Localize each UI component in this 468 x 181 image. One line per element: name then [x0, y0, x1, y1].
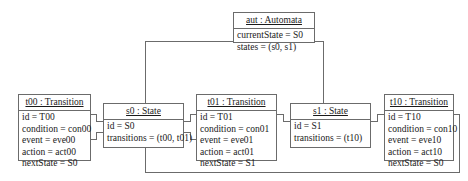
- object-title-t10: t10 : Transition: [390, 97, 448, 107]
- object-title-t00: t00 : Transition: [25, 97, 83, 107]
- object-header-t01: t01 : Transition: [197, 95, 276, 111]
- slot: condition = con10: [388, 124, 450, 136]
- object-title-t01: t01 : Transition: [207, 97, 265, 107]
- object-header-aut: aut : Automata: [234, 13, 314, 29]
- slot: nextState = S0: [22, 158, 87, 170]
- object-node-s1[interactable]: s1 : State id = S1 transitions = (t10): [290, 103, 371, 148]
- slot: id = S0: [107, 121, 180, 133]
- slot: event = eve00: [22, 135, 87, 147]
- object-node-aut[interactable]: aut : Automata currentState = S0 states …: [233, 12, 315, 43]
- slot: action = act10: [388, 147, 450, 159]
- slot: id = T01: [200, 112, 273, 124]
- object-slots-t01: id = T01 condition = con01 event = eve01…: [197, 111, 276, 172]
- link-s0-t01: [184, 115, 197, 122]
- slot: nextState = S0: [388, 158, 450, 170]
- slot: action = act00: [22, 147, 87, 159]
- link-t01-s1: [277, 115, 291, 122]
- slot: id = S1: [294, 121, 367, 133]
- slot: transitions = (t10): [294, 133, 367, 145]
- object-slots-t00: id = T00 condition = con00 event = eve00…: [19, 111, 90, 172]
- object-slots-aut: currentState = S0 states = (s0, s1): [234, 29, 314, 55]
- object-node-t10[interactable]: t10 : Transition id = T10 condition = co…: [384, 94, 454, 161]
- object-diagram-canvas: aut : Automata currentState = S0 states …: [0, 0, 468, 181]
- slot: states = (s0, s1): [237, 42, 311, 54]
- object-slots-t10: id = T10 condition = con10 event = eve10…: [385, 111, 453, 172]
- object-slots-s1: id = S1 transitions = (t10): [291, 120, 370, 146]
- object-node-t01[interactable]: t01 : Transition id = T01 condition = co…: [196, 94, 277, 161]
- object-node-t00[interactable]: t00 : Transition id = T00 condition = co…: [18, 94, 91, 161]
- link-s1-t10: [371, 115, 385, 122]
- link-t00-s0: [91, 115, 104, 122]
- object-slots-s0: id = S0 transitions = (t00, t01): [104, 120, 183, 146]
- object-header-s1: s1 : State: [291, 104, 370, 120]
- link-s0-t00: [91, 133, 104, 140]
- slot: nextState = S1: [200, 158, 273, 170]
- object-header-s0: s0 : State: [104, 104, 183, 120]
- slot: event = eve10: [388, 135, 450, 147]
- object-header-t10: t10 : Transition: [385, 95, 453, 111]
- slot: event = eve01: [200, 135, 273, 147]
- object-node-s0[interactable]: s0 : State id = S0 transitions = (t00, t…: [103, 103, 184, 148]
- slot: id = T00: [22, 112, 87, 124]
- object-title-s1: s1 : State: [313, 106, 348, 116]
- slot: transitions = (t00, t01): [107, 133, 180, 145]
- slot: id = T10: [388, 112, 450, 124]
- slot: condition = con01: [200, 124, 273, 136]
- object-header-t00: t00 : Transition: [19, 95, 90, 111]
- slot: action = act01: [200, 147, 273, 159]
- slot: condition = con00: [22, 124, 87, 136]
- object-title-s0: s0 : State: [126, 106, 161, 116]
- slot: currentState = S0: [237, 30, 311, 42]
- object-title-aut: aut : Automata: [246, 15, 302, 25]
